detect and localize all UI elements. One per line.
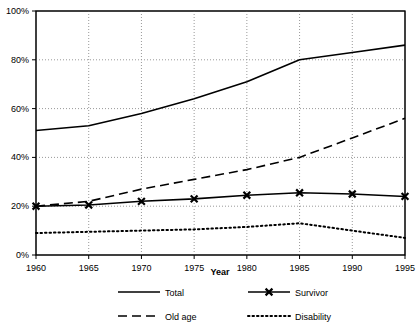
legend-item-total[interactable]: Total: [118, 288, 184, 298]
plot-area-border: [36, 11, 405, 255]
x-tick-label: 1965: [79, 263, 99, 273]
y-axis-ticks: 0%20%40%60%80%100%: [6, 6, 36, 260]
y-tick-label: 40%: [11, 152, 29, 162]
x-tick-label: 1970: [131, 263, 151, 273]
y-tick-label: 60%: [11, 104, 29, 114]
chart-legend: TotalSurvivorOld ageDisability: [118, 288, 332, 322]
legend-label: Old age: [165, 312, 197, 322]
legend-item-disability[interactable]: Disability: [248, 312, 332, 322]
legend-label: Total: [165, 288, 184, 298]
y-tick-label: 20%: [11, 201, 29, 211]
legend-item-survivor[interactable]: Survivor: [248, 288, 328, 298]
chart-canvas: 0%20%40%60%80%100% 196019651970197519801…: [0, 0, 419, 331]
x-axis-title: Year: [210, 267, 230, 277]
y-tick-label: 100%: [6, 6, 29, 16]
x-tick-label: 1985: [290, 263, 310, 273]
line-chart: 0%20%40%60%80%100% 196019651970197519801…: [0, 0, 419, 331]
x-tick-label: 1980: [237, 263, 257, 273]
legend-label: Disability: [295, 312, 332, 322]
x-tick-label: 1960: [26, 263, 46, 273]
y-tick-label: 80%: [11, 55, 29, 65]
legend-label: Survivor: [295, 288, 328, 298]
y-tick-label: 0%: [16, 250, 29, 260]
x-tick-label: 1975: [184, 263, 204, 273]
legend-item-old-age[interactable]: Old age: [118, 312, 197, 322]
x-tick-label: 1995: [395, 263, 415, 273]
x-tick-label: 1990: [342, 263, 362, 273]
